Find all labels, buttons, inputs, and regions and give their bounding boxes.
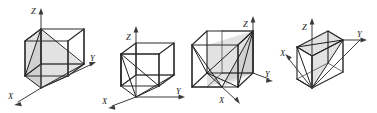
z-axis-label-4: Z: [302, 22, 307, 32]
cube-diagram-4: Z Y X: [279, 18, 367, 88]
x-axis-label-1: X: [7, 91, 14, 101]
cube-diagram-2: Z Y X: [101, 26, 185, 110]
y-axis-label-2: Y: [176, 86, 182, 96]
z-axis-label-2: Z: [126, 32, 131, 42]
x-axis-arrowhead-1: [14, 102, 22, 106]
z-axis-arrowhead-2: [134, 26, 139, 33]
x-axis-label-4: X: [279, 48, 286, 58]
plane-edge-4g: [297, 79, 312, 88]
y-axis-label-3: Y: [265, 69, 271, 79]
x-axis-line-1: [18, 88, 41, 102]
x-axis-label-2: X: [101, 96, 108, 106]
cube-diagram-1: Z Y X: [7, 6, 96, 106]
cube-diagram-3: Z Y X: [192, 16, 273, 105]
x-axis-line-2: [112, 97, 136, 106]
figure-container: Z Y X: [0, 0, 377, 113]
z-axis-label-3: Z: [243, 19, 248, 29]
x-axis-label-3: X: [218, 95, 225, 105]
y-axis-label-4: Y: [357, 29, 363, 39]
crystallographic-diagram-svg: Z Y X: [0, 0, 377, 113]
cube-edge-connect-1a: [68, 29, 84, 41]
x-axis-arrowhead-3: [234, 97, 240, 104]
z-axis-arrowhead-3: [251, 16, 256, 23]
z-axis-label-1: Z: [31, 6, 36, 16]
cube-edge-connect-2a: [159, 43, 174, 54]
z-axis-arrowhead-4: [310, 18, 315, 25]
y-axis-arrowhead-3: [266, 79, 273, 83]
plane-edge-3i: [192, 45, 207, 73]
z-axis-arrowhead-1: [39, 8, 44, 15]
y-axis-label-1: Y: [90, 53, 96, 63]
x-axis-arrowhead-4: [285, 54, 292, 60]
